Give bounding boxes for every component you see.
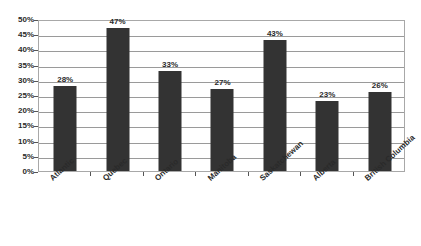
bar[interactable] [106, 28, 129, 171]
y-tick-label: 30% [0, 77, 34, 85]
bar-slot: 27% [196, 21, 248, 171]
bar-value-label: 26% [372, 81, 388, 90]
plot-area: 28%47%33%27%43%23%26% [38, 20, 405, 172]
y-tick-label: 5% [0, 153, 34, 161]
y-tick-label: 10% [0, 138, 34, 146]
chart-title [0, 0, 421, 13]
y-tick-label: 15% [0, 122, 34, 130]
bar[interactable] [159, 71, 182, 171]
y-tick-label: 50% [0, 16, 34, 24]
bar-value-label: 27% [214, 78, 230, 87]
y-tick-label: 25% [0, 92, 34, 100]
bar[interactable] [54, 86, 77, 171]
bar-slot: 23% [301, 21, 353, 171]
bar-value-label: 47% [110, 17, 126, 26]
y-tick-label: 35% [0, 62, 34, 70]
bar[interactable] [263, 40, 286, 171]
bar-value-label: 33% [162, 60, 178, 69]
bar-slot: 33% [144, 21, 196, 171]
y-tick-label: 20% [0, 107, 34, 115]
bar-slot: 28% [39, 21, 91, 171]
y-tick-label: 45% [0, 31, 34, 39]
y-tick-label: 40% [0, 46, 34, 54]
bar-value-label: 23% [319, 90, 335, 99]
y-tick-label: 0% [0, 168, 34, 176]
bar-slot: 47% [91, 21, 143, 171]
bar-chart: 0%5%10%15%20%25%30%35%40%45%50% 28%47%33… [0, 0, 421, 246]
x-axis-labels: AtlanticQuebecOntarioManitobaSaskatchewa… [38, 176, 405, 246]
bar-value-label: 28% [57, 75, 73, 84]
y-axis: 0%5%10%15%20%25%30%35%40%45%50% [0, 20, 34, 172]
bar-value-label: 43% [267, 29, 283, 38]
